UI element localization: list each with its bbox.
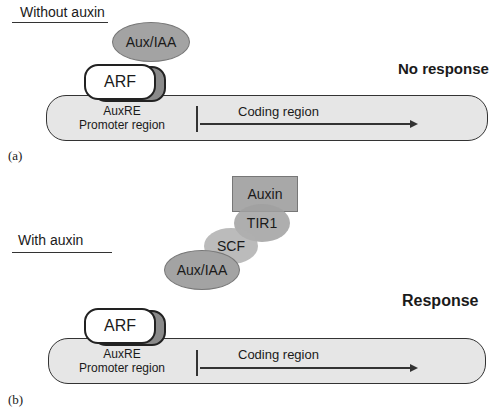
auxre-promoter-a: AuxRE Promoter region	[72, 104, 172, 132]
result-response: Response	[402, 292, 478, 310]
panel-letter-b: (b)	[8, 392, 23, 408]
result-no-response: No response	[398, 60, 489, 77]
coding-arrow-line-b	[200, 367, 412, 369]
aux-iaa-protein-a: Aux/IAA	[112, 22, 190, 62]
arf-label: ARF	[104, 317, 136, 335]
aux-iaa-label: Aux/IAA	[126, 34, 177, 50]
promoter-boundary-b	[196, 350, 198, 376]
coding-arrow-line-a	[200, 123, 412, 125]
aux-iaa-label: Aux/IAA	[177, 262, 228, 278]
auxre-promoter-b: AuxRE Promoter region	[72, 347, 172, 375]
arf-protein-b: ARF	[84, 308, 156, 344]
coding-region-label-b: Coding region	[238, 347, 319, 362]
arf-label: ARF	[104, 73, 136, 91]
coding-region-label-a: Coding region	[238, 104, 319, 119]
promoter-boundary-a	[196, 106, 198, 132]
auxre-label: AuxRE	[72, 104, 172, 118]
aux-iaa-protein-b: Aux/IAA	[164, 250, 240, 290]
tir1-label: TIR1	[247, 215, 277, 231]
arrow-right-icon	[410, 120, 418, 128]
arf-protein-a: ARF	[84, 64, 156, 100]
promoter-label: Promoter region	[72, 118, 172, 132]
condition-underline	[12, 252, 112, 253]
auxin-label: Auxin	[247, 186, 282, 202]
condition-underline	[12, 22, 108, 23]
arrow-right-icon	[410, 364, 418, 372]
promoter-label: Promoter region	[72, 361, 172, 375]
condition-label-without-auxin: Without auxin	[20, 4, 105, 20]
auxre-label: AuxRE	[72, 347, 172, 361]
panel-letter-a: (a)	[8, 148, 22, 164]
scf-label: SCF	[217, 238, 245, 254]
condition-label-with-auxin: With auxin	[18, 232, 83, 248]
